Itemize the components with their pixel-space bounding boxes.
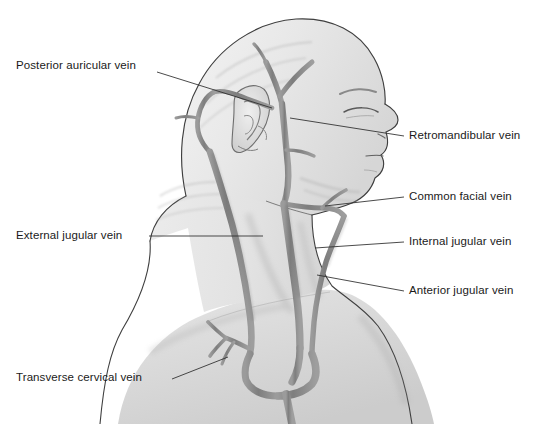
label-common-facial-vein: Common facial vein [409,191,512,203]
leader-internal-jugular-vein [315,242,404,248]
body-silhouette [100,19,434,424]
label-posterior-auricular-vein: Posterior auricular vein [16,60,136,72]
label-anterior-jugular-vein: Anterior jugular vein [409,285,513,297]
anatomy-figure: Posterior auricular vein Retromandibular… [0,0,539,424]
occipital-tributary [176,117,198,119]
label-internal-jugular-vein: Internal jugular vein [409,236,511,248]
label-external-jugular-vein: External jugular vein [16,230,122,242]
label-transverse-cervical-vein: Transverse cervical vein [16,372,142,384]
label-retromandibular-vein: Retromandibular vein [409,130,520,142]
